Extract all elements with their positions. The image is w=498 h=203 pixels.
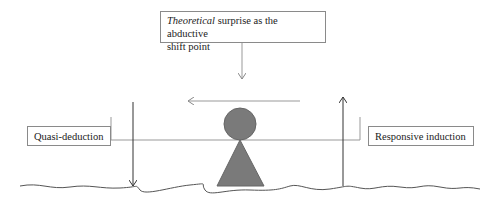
quasi-deduction-box: Quasi-deduction [27, 126, 111, 146]
diagram: Theoretical surprise as the abductive sh… [0, 0, 498, 203]
fulcrum-triangle [217, 140, 264, 186]
shift-point-text: shift point [167, 41, 210, 52]
fulcrum-circle [224, 108, 256, 140]
abductive-shift-box: Theoretical surprise as the abductive sh… [160, 11, 326, 43]
responsive-induction-box: Responsive induction [368, 126, 474, 146]
theoretical-text: Theoretical [167, 15, 215, 26]
